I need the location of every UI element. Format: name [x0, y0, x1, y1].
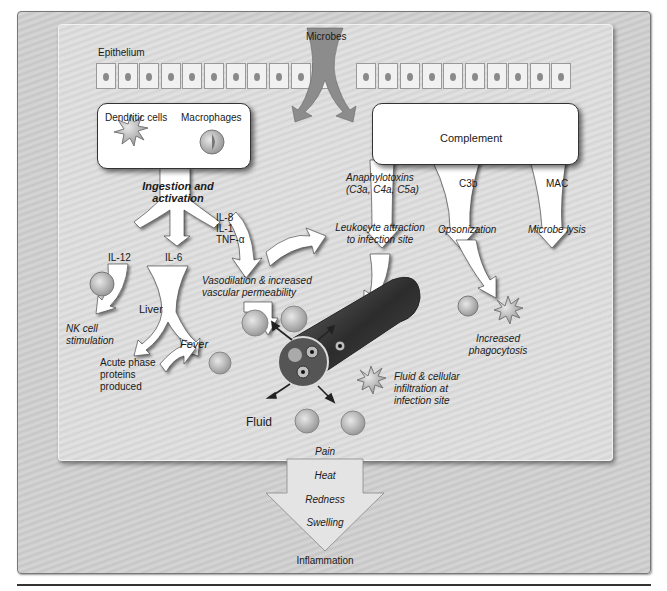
microbe-lysis-label: Microbe lysis [528, 224, 586, 236]
infiltration-label: Fluid & cellularinfiltration atinfection… [394, 371, 460, 407]
cytokines-label: IL-8IL-1TNF-α [216, 212, 245, 245]
il12-label: IL-12 [108, 252, 131, 264]
microbes-label: Microbes [306, 31, 347, 43]
macrophages-label: Macrophages [181, 112, 242, 124]
complement-label: Complement [440, 132, 502, 144]
c3b-label: C3b [459, 178, 477, 190]
fever-label: Fever [180, 338, 208, 350]
dendritic-cells-label: Dendritic cells [105, 112, 167, 124]
leukocyte-attraction-label: Leukocyte attractionto infection site [330, 222, 430, 246]
opsonization-label: Opsonization [438, 224, 496, 236]
ingestion-label: Ingestion andactivation [138, 180, 218, 204]
increased-phagocytosis-label: Increasedphagocytosis [458, 333, 538, 357]
il6-label: IL-6 [165, 252, 182, 264]
swelling-label: Swelling [300, 517, 350, 529]
pain-label: Pain [300, 446, 350, 458]
anaphylatoxins-label: Anaphylotoxins(C3a, C4a, C5a) [346, 172, 419, 196]
nk-stimulation-label: NK cellstimulation [66, 323, 114, 347]
redness-label: Redness [300, 494, 350, 506]
epithelium-label: Epithelium [98, 47, 145, 59]
inflammation-label: Inflammation [285, 555, 365, 567]
heat-label: Heat [300, 470, 350, 482]
liver-label: Liver [139, 303, 163, 315]
vasodilation-label: Vasodilation & increasedvascular permeab… [202, 275, 312, 299]
fluid-label: Fluid [246, 416, 272, 428]
mac-label: MAC [546, 178, 568, 190]
acute-phase-label: Acute phaseproteinsproduced [100, 357, 156, 393]
